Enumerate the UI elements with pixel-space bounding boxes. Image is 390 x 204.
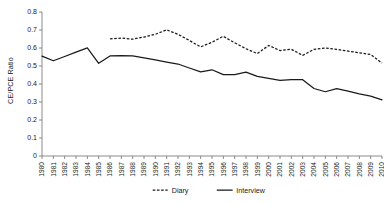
x-axis-tick-label: 2006	[333, 162, 340, 177]
x-axis-tick-label: 2010	[378, 162, 384, 177]
x-axis-tick-label: 1983	[72, 162, 79, 177]
x-axis-tick-label: 2001	[276, 162, 283, 177]
x-axis-tick-label: 1989	[140, 162, 147, 177]
x-axis-tick-label: 1986	[106, 162, 113, 177]
y-axis: 00.10.20.30.40.50.60.70.8	[27, 8, 42, 159]
y-axis-title: CE/PCE Ratio	[2, 0, 18, 160]
x-axis-tick-label: 2009	[367, 162, 374, 177]
x-axis-tick-label: 2003	[299, 162, 306, 177]
line-chart: CE/PCE Ratio 00.10.20.30.40.50.60.70.8 1…	[0, 0, 390, 204]
x-axis-tick-label: 1995	[208, 162, 215, 177]
x-axis-tick-label: 1998	[242, 162, 249, 177]
y-axis-tick-label: 0.6	[27, 44, 37, 51]
y-axis-tick-label: 0.3	[27, 98, 37, 105]
x-axis-tick-label: 1996	[220, 162, 227, 177]
x-axis-tick-label: 2007	[344, 162, 351, 177]
chart-canvas: 00.10.20.30.40.50.60.70.8 19801981198219…	[18, 4, 384, 200]
y-axis-tick-label: 0.4	[27, 80, 37, 87]
legend-label-interview: Interview	[236, 186, 266, 195]
x-axis-tick-label: 1984	[84, 162, 91, 177]
x-axis-tick-label: 1999	[254, 162, 261, 177]
series-line-diary	[110, 30, 382, 63]
x-axis-tick-label: 1991	[163, 162, 170, 177]
x-axis-tick-label: 2005	[322, 162, 329, 177]
x-axis-tick-label: 1981	[50, 162, 57, 177]
x-axis: 1980198119821983198419851986198719881989…	[38, 156, 384, 177]
x-axis-tick-label: 1990	[152, 162, 159, 177]
y-axis-tick-label: 0.5	[27, 62, 37, 69]
y-axis-title-text: CE/PCE Ratio	[6, 57, 15, 104]
y-axis-tick-label: 0.2	[27, 116, 37, 123]
y-axis-tick-label: 0.8	[27, 8, 37, 15]
y-axis-tick-label: 0.7	[27, 26, 37, 33]
y-axis-tick-label: 0	[33, 152, 37, 159]
series-line-interview	[42, 48, 382, 100]
x-axis-tick-label: 1993	[186, 162, 193, 177]
x-axis-tick-label: 2000	[265, 162, 272, 177]
x-axis-tick-label: 2002	[288, 162, 295, 177]
x-axis-tick-label: 2004	[310, 162, 317, 177]
x-axis-tick-label: 1982	[61, 162, 68, 177]
x-axis-tick-label: 1992	[174, 162, 181, 177]
plot-area-wrapper: 00.10.20.30.40.50.60.70.8 19801981198219…	[18, 4, 384, 200]
chart-legend: DiaryInterview	[153, 186, 266, 195]
legend-label-diary: Diary	[172, 186, 189, 195]
x-axis-tick-label: 1988	[129, 162, 136, 177]
x-axis-tick-label: 1985	[95, 162, 102, 177]
y-axis-tick-label: 0.1	[27, 134, 37, 141]
x-axis-tick-label: 1994	[197, 162, 204, 177]
x-axis-tick-label: 1997	[231, 162, 238, 177]
x-axis-tick-label: 1980	[38, 162, 45, 177]
x-axis-tick-label: 1987	[118, 162, 125, 177]
data-series-group	[42, 30, 382, 100]
x-axis-tick-label: 2008	[356, 162, 363, 177]
